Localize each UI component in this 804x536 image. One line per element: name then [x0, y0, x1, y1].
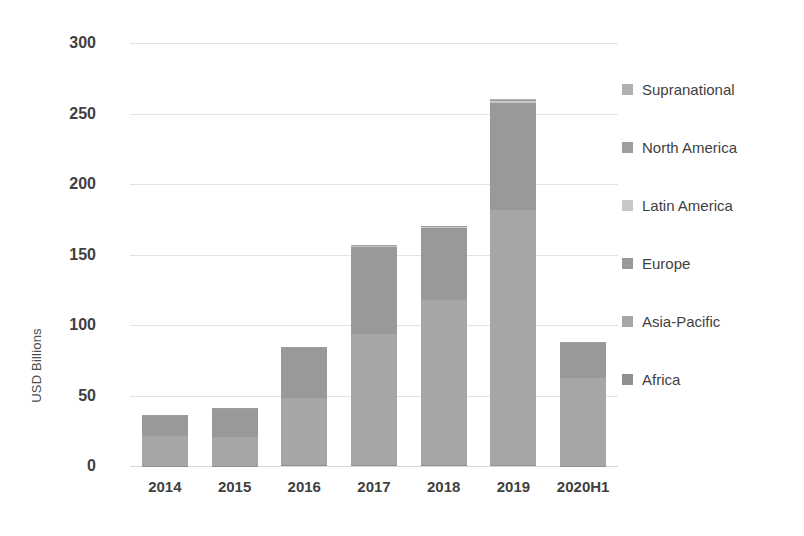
bar-segment[interactable] [421, 465, 467, 466]
x-tick-label: 2014 [148, 478, 181, 495]
y-tick-label: 0 [26, 457, 96, 475]
bar-segment[interactable] [281, 398, 327, 466]
legend-swatch-icon [622, 200, 633, 211]
legend-item[interactable]: Europe [622, 234, 804, 292]
legend-item[interactable]: Africa [622, 350, 804, 408]
x-tick-label: 2019 [497, 478, 530, 495]
bar-segment[interactable] [142, 436, 188, 466]
bar-group[interactable] [281, 347, 327, 466]
legend-label: Europe [642, 256, 690, 271]
bar-group[interactable] [490, 99, 536, 466]
bar-group[interactable] [351, 245, 397, 466]
x-tick-label: 2016 [288, 478, 321, 495]
legend-label: Africa [642, 372, 680, 387]
legend-item[interactable]: Supranational [622, 60, 804, 118]
legend-swatch-icon [622, 258, 633, 269]
legend-label: North America [642, 140, 737, 155]
bar-segment[interactable] [560, 343, 606, 378]
y-tick-label: 50 [26, 387, 96, 405]
bar-group[interactable] [212, 408, 258, 466]
bar-stack [560, 342, 606, 466]
y-tick-label: 150 [26, 246, 96, 264]
legend-label: Asia-Pacific [642, 314, 720, 329]
y-tick-label: 100 [26, 316, 96, 334]
legend-item[interactable]: North America [622, 118, 804, 176]
bar-segment[interactable] [490, 103, 536, 210]
gridline [130, 114, 618, 115]
bar-segment[interactable] [421, 300, 467, 465]
axis-baseline [130, 466, 618, 467]
bar-stack [490, 99, 536, 466]
legend-swatch-icon [622, 142, 633, 153]
gridline [130, 43, 618, 44]
bar-segment[interactable] [212, 409, 258, 437]
bar-stack [212, 408, 258, 466]
bar-segment[interactable] [560, 378, 606, 465]
gridline [130, 184, 618, 185]
y-tick-label: 300 [26, 34, 96, 52]
bar-stack [351, 245, 397, 466]
x-tick-label: 2018 [427, 478, 460, 495]
bar-group[interactable] [560, 342, 606, 466]
bar-segment[interactable] [351, 334, 397, 465]
x-tick-label: 2015 [218, 478, 251, 495]
bar-segment[interactable] [351, 465, 397, 466]
stacked-bar-chart: USD Billions 300250200150100500 20142015… [0, 0, 804, 536]
plot-area [130, 43, 618, 466]
legend-label: Latin America [642, 198, 733, 213]
bar-segment[interactable] [142, 416, 188, 436]
legend-item[interactable]: Asia-Pacific [622, 292, 804, 350]
y-tick-label: 250 [26, 105, 96, 123]
bar-segment[interactable] [490, 210, 536, 465]
bar-segment[interactable] [281, 348, 327, 397]
legend-swatch-icon [622, 84, 633, 95]
bar-segment[interactable] [421, 228, 467, 300]
y-tick-label: 200 [26, 175, 96, 193]
legend-swatch-icon [622, 316, 633, 327]
bar-stack [142, 415, 188, 466]
bar-stack [421, 226, 467, 466]
bar-segment[interactable] [212, 437, 258, 465]
bar-stack [281, 347, 327, 466]
bar-group[interactable] [142, 415, 188, 466]
bar-segment[interactable] [490, 465, 536, 466]
legend-label: Supranational [642, 82, 735, 97]
x-tick-label: 2017 [357, 478, 390, 495]
bar-segment[interactable] [351, 247, 397, 334]
bar-group[interactable] [421, 226, 467, 466]
x-tick-label: 2020H1 [557, 478, 610, 495]
legend-swatch-icon [622, 374, 633, 385]
legend-item[interactable]: Latin America [622, 176, 804, 234]
legend: SupranationalNorth AmericaLatin AmericaE… [622, 60, 804, 408]
bar-segment[interactable] [281, 465, 327, 466]
